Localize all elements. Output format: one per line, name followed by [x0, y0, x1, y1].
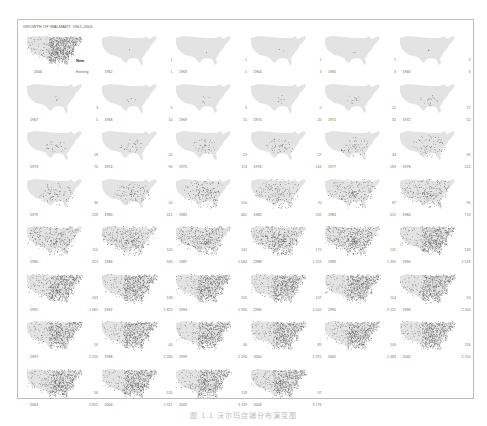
map-panel-1966: 196633 — [397, 32, 471, 78]
panel-new-count: 85 — [318, 343, 322, 347]
map-panel-1990: 19901281 518 — [397, 222, 471, 268]
panel-total-count: 619 — [390, 213, 396, 217]
panel-total-count: 52 — [467, 118, 471, 122]
panel-new-count: 20 — [169, 153, 173, 157]
panel-total-count: 1 259 — [313, 260, 322, 264]
panel-total-count: 32 — [392, 118, 396, 122]
panel-year: 1967 — [30, 118, 38, 122]
panel-new-count: 150 — [241, 201, 247, 205]
panel-year: 1984 — [403, 213, 411, 217]
map-panel-1969: 1969315 — [173, 80, 247, 126]
us-map — [322, 80, 384, 116]
us-map — [99, 222, 161, 258]
panel-total-count: 2 260 — [164, 355, 173, 359]
panel-year: 1969 — [179, 118, 187, 122]
us-map-outline — [27, 84, 82, 113]
us-map-outline — [251, 274, 306, 303]
map-panel-2003: 2003562 852 — [24, 365, 98, 411]
map-panel-2000: 2000852 375 — [248, 317, 322, 363]
panel-new-count: 34 — [392, 153, 396, 157]
panel-year: 1965 — [328, 70, 336, 74]
panel-year: 1997 — [30, 355, 38, 359]
panel-total-count: 2 375 — [313, 355, 322, 359]
us-map — [99, 127, 161, 163]
panel-new-count: 175 — [316, 248, 322, 252]
panel-new-count: 17 — [467, 106, 471, 110]
map-panel-1974: 19742090 — [99, 127, 173, 173]
panel-year: 1970 — [254, 118, 262, 122]
panel-total-count: 713 — [465, 213, 471, 217]
us-map — [24, 127, 86, 163]
map-panel-1993: 19931161 935 — [173, 270, 247, 316]
us-map-outline — [176, 131, 231, 160]
panel-total-count: 943 — [167, 260, 173, 264]
panel-new-count: 109 — [390, 343, 396, 347]
panel-new-count: 18 — [94, 153, 98, 157]
panel-total-count: 2 700 — [462, 355, 471, 359]
map-panel-1988: 19881751 259 — [248, 222, 322, 268]
us-map — [99, 80, 161, 116]
panel-total-count: 532 — [316, 213, 322, 217]
us-map — [173, 80, 235, 116]
panel-year: 2003 — [30, 403, 38, 407]
us-map — [248, 175, 310, 211]
map-panel-1991: 19911631 681 — [24, 270, 98, 316]
panel-year: 2000 — [254, 355, 262, 359]
us-map-outline — [27, 179, 82, 208]
panel-year: 1990 — [403, 260, 411, 264]
panel-new-count: 114 — [390, 296, 396, 300]
panel-year: 1988 — [254, 260, 262, 264]
panel-total-count: 90 — [169, 165, 173, 169]
panel-total-count: 222 — [465, 165, 471, 169]
us-map-outline — [102, 179, 157, 208]
panel-year: 1974 — [105, 165, 113, 169]
figure-caption: 图 1.1 沃尔玛店铺分布演变图 — [0, 410, 487, 420]
map-panel-1989: 19891311 390 — [322, 222, 396, 268]
panel-total-count: 1 681 — [89, 308, 98, 312]
panel-total-count: 1 518 — [462, 260, 471, 264]
us-map-outline — [251, 36, 306, 65]
us-map — [397, 80, 459, 116]
us-map-outline — [176, 369, 231, 398]
panel-total-count: 143 — [316, 165, 322, 169]
us-map — [173, 175, 235, 211]
us-map — [248, 32, 310, 68]
map-panel-2002: 20021162 700 — [397, 317, 471, 363]
map-panel-1968: 1968510 — [99, 80, 173, 126]
panel-total-count: 2 921 — [164, 403, 173, 407]
panel-year: 1963 — [179, 70, 187, 74]
panel-new-count: 110 — [92, 248, 98, 252]
us-map — [322, 32, 384, 68]
panel-total-count: 70 — [94, 165, 98, 169]
panel-total-count: 2 151 — [387, 308, 396, 312]
map-panel-1986: 1986120943 — [99, 222, 173, 268]
panel-year: 1978 — [403, 165, 411, 169]
us-map — [173, 127, 235, 163]
us-map-outline — [27, 131, 82, 160]
panel-total-count: 3 139 — [238, 403, 247, 407]
map-panel-1992: 19921381 819 — [99, 270, 173, 316]
map-panel-1984: 198495713 — [397, 175, 471, 221]
us-map-outline — [325, 36, 380, 65]
us-map — [173, 270, 235, 306]
panel-year: 1975 — [179, 165, 187, 169]
us-map — [248, 80, 310, 116]
panel-total-count: 2 220 — [89, 355, 98, 359]
panel-year: 2006 — [254, 403, 262, 407]
panel-new-count: 116 — [465, 343, 471, 347]
chart-title: GROWTH OF WALMART: 1962-2006 — [23, 24, 92, 29]
us-map-outline — [400, 36, 455, 65]
panel-year: 1968 — [105, 118, 113, 122]
us-map — [322, 270, 384, 306]
panel-year: 2001 — [328, 355, 336, 359]
panel-new-count: 131 — [390, 248, 396, 252]
panel-new-count: 87 — [392, 201, 396, 205]
panel-new-count: 23 — [243, 153, 247, 157]
us-map — [248, 127, 310, 163]
panel-year: 1980 — [105, 213, 113, 217]
panel-year: 1981 — [179, 213, 187, 217]
panel-total-count: 2 204 — [462, 308, 471, 312]
us-map-outline — [251, 84, 306, 113]
panel-new-count: 120 — [167, 391, 173, 395]
map-panel-1999: 1999302 290 — [173, 317, 247, 363]
